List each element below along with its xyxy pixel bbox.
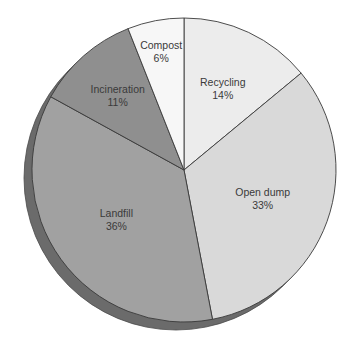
slice-label-name: Compost [140,39,182,51]
pie-slices [32,18,336,322]
slice-label-value: 33% [252,199,273,211]
slice-label-name: Open dump [235,186,290,198]
slice-label-value: 36% [106,220,127,232]
slice-label-value: 6% [154,52,169,64]
slice-label-value: 11% [108,96,128,108]
slice-label-name: Landfill [100,207,133,219]
slice-label-value: 14% [212,89,233,101]
slice-label-name: Incineration [91,83,145,95]
slice-label-name: Recycling [200,76,246,88]
pie-chart: Recycling14%Open dump33%Landfill36%Incin… [0,0,352,341]
